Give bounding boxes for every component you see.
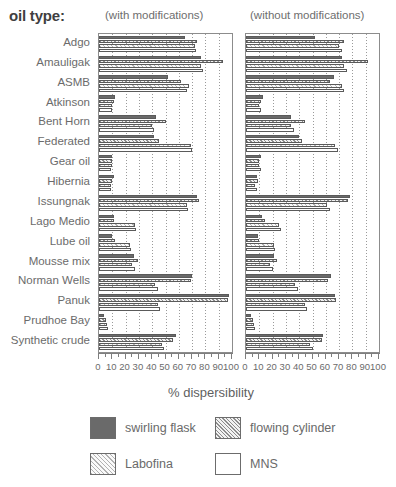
axis-tick-70 (191, 353, 192, 359)
bar-mns (99, 228, 136, 231)
bar-row (99, 283, 232, 286)
bar-group (246, 74, 379, 94)
axis-tick-10 (258, 353, 259, 359)
plot-panel-with-modifications (98, 33, 233, 353)
bar-labofina (99, 104, 112, 107)
bar-swirling-flask (246, 195, 350, 198)
category-label-adgo: Adgo (0, 37, 90, 47)
bar-flowing-cylinder (246, 80, 330, 83)
bar-group (99, 94, 232, 114)
bar-swirling-flask (246, 135, 299, 138)
bar-row (246, 69, 379, 72)
legend-item-flowing-cylinder[interactable]: flowing cylinder (215, 417, 335, 439)
bar-row (99, 139, 232, 142)
bar-row (99, 298, 232, 301)
bar-flowing-cylinder (99, 60, 223, 63)
axis-tick-20 (125, 353, 126, 359)
bar-row (246, 294, 379, 297)
bar-row (99, 215, 232, 218)
x-axis-title: % dispersibility (0, 385, 396, 400)
bar-row (246, 84, 379, 87)
bar-labofina (246, 164, 259, 167)
bar-labofina (99, 124, 152, 127)
bar-labofina (99, 184, 111, 187)
bar-mns (99, 168, 111, 171)
axis-tick-40 (298, 353, 299, 359)
bar-labofina (99, 323, 107, 326)
legend-swatch-light-diagonal-hatch (90, 453, 116, 475)
bar-swirling-flask (246, 334, 323, 337)
bar-row (246, 239, 379, 242)
bar-group (246, 133, 379, 153)
bar-swirling-flask (246, 175, 257, 178)
bar-row (246, 40, 379, 43)
legend-item-mns[interactable]: MNS (215, 453, 278, 475)
bar-mns (246, 108, 261, 111)
bar-swirling-flask (246, 294, 335, 297)
category-label-prudhoe-bay: Prudhoe Bay (0, 315, 90, 325)
bar-group (99, 213, 232, 233)
category-label-mousse-mix: Mousse mix (0, 256, 90, 266)
bar-mns (99, 108, 112, 111)
bar-row (246, 188, 379, 191)
bar-swirling-flask (99, 95, 115, 98)
bar-row (246, 338, 379, 341)
bar-labofina (99, 223, 135, 226)
bar-row (99, 40, 232, 43)
bar-row (99, 274, 232, 277)
bar-row (99, 184, 232, 187)
bar-labofina (246, 124, 291, 127)
axis-tick-0 (98, 353, 99, 359)
bar-flowing-cylinder (99, 179, 112, 182)
bar-group (99, 133, 232, 153)
bar-row (246, 267, 379, 270)
bar-row (246, 323, 379, 326)
bar-row (99, 208, 232, 211)
axis-tick-10 (111, 353, 112, 359)
bar-labofina (246, 263, 270, 266)
bar-swirling-flask (246, 274, 331, 277)
bar-group (99, 74, 232, 94)
bar-flowing-cylinder (246, 279, 328, 282)
bar-swirling-flask (246, 56, 342, 59)
bar-swirling-flask (99, 195, 197, 198)
bar-row (99, 219, 232, 222)
bar-labofina (99, 84, 189, 87)
x-axis-right (245, 353, 380, 360)
bar-row (246, 49, 379, 52)
bar-flowing-cylinder (246, 179, 258, 182)
bar-row (246, 115, 379, 118)
axis-tick-75 (345, 353, 346, 357)
bar-row (246, 215, 379, 218)
legend-item-swirling-flask[interactable]: swirling flask (90, 417, 196, 439)
bar-row (246, 44, 379, 47)
bar-row (246, 159, 379, 162)
axis-tick-40 (151, 353, 152, 359)
bar-group (246, 292, 379, 312)
legend-item-labofina[interactable]: Labofina (90, 453, 173, 475)
bar-mns (99, 69, 203, 72)
bar-group (99, 253, 232, 273)
bar-group (246, 273, 379, 293)
x-tick-label-40: 40 (293, 361, 304, 372)
bar-flowing-cylinder (246, 199, 348, 202)
bar-row (99, 307, 232, 310)
bar-swirling-flask (246, 215, 262, 218)
x-tick-label-90: 90 (359, 361, 370, 372)
bar-row (99, 279, 232, 282)
bar-mns (246, 168, 261, 171)
legend-label: MNS (250, 457, 278, 471)
bar-labofina (99, 164, 112, 167)
bar-swirling-flask (99, 274, 192, 277)
bar-row (246, 223, 379, 226)
x-tick-label-50: 50 (159, 361, 170, 372)
axis-tick-30 (138, 353, 139, 359)
bar-mns (246, 69, 347, 72)
bar-row (99, 49, 232, 52)
bar-row (246, 175, 379, 178)
bar-group (246, 54, 379, 74)
axis-tick-75 (198, 353, 199, 357)
bar-row (246, 347, 379, 350)
bar-row (99, 164, 232, 167)
x-tick-label-60: 60 (173, 361, 184, 372)
